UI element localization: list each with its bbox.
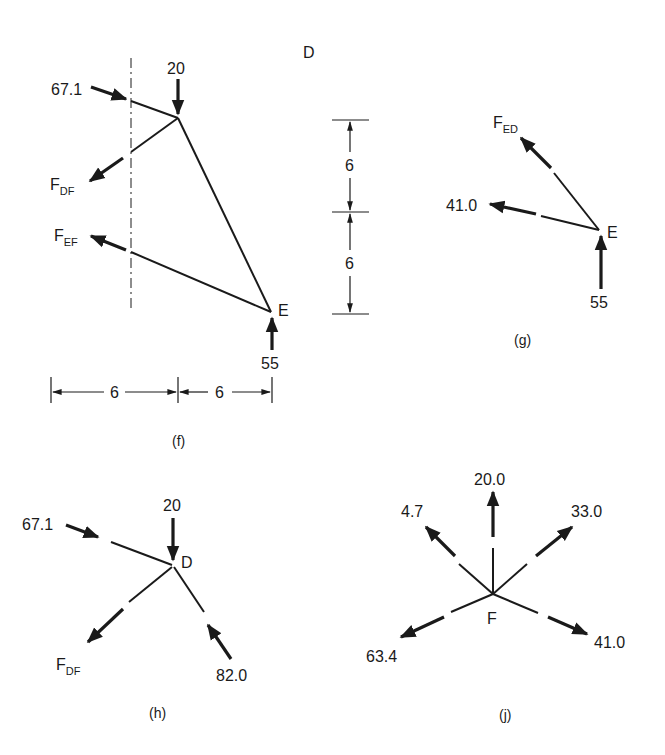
force-arrow-41-0 [490, 204, 536, 214]
label-node-D-top: D [303, 44, 315, 61]
force-arrow-F-EF [91, 236, 126, 250]
label-force-67-1-h: 67.1 [22, 516, 53, 533]
label-force-20-0: 20.0 [474, 471, 505, 488]
label-F-EF: FEF [54, 227, 78, 248]
label-node-D-h: D [181, 554, 193, 571]
label-force-41-0-j: 41.0 [594, 634, 625, 651]
label-force-63-4: 63.4 [366, 648, 397, 665]
member-h-F-DF [129, 567, 172, 602]
member-h-67-1 [111, 542, 172, 565]
label-force-67-1: 67.1 [51, 81, 82, 98]
force-arrow-33-0 [536, 527, 572, 556]
force-arrow-67-1 [91, 87, 126, 99]
force-arrow-63-4 [401, 617, 444, 637]
member-j-down-right [493, 594, 538, 613]
force-arrow-F-DF-h [88, 609, 123, 642]
label-force-20-h: 20 [163, 497, 181, 514]
force-arrow-41-0-j [548, 617, 587, 634]
member-cut-to-D-upper [131, 101, 178, 118]
label-force-82-0: 82.0 [216, 667, 247, 684]
caption-g: (g) [514, 332, 531, 348]
label-F-DF-h: FDF [56, 656, 81, 677]
label-F-ED: FED [493, 114, 518, 135]
member-j-up-right [493, 564, 527, 594]
force-arrow-F-DF [90, 158, 123, 181]
force-arrow-F-ED [521, 138, 551, 168]
member-D-to-E [178, 118, 271, 312]
label-force-55: 55 [261, 355, 279, 372]
label-force-20: 20 [167, 60, 185, 77]
member-h-82-0 [174, 567, 204, 612]
label-force-4-7: 4.7 [401, 503, 423, 520]
force-arrow-82-0 [208, 625, 231, 659]
caption-j: (j) [499, 707, 511, 723]
label-node-F-j: F [487, 610, 497, 627]
label-node-E: E [278, 302, 289, 319]
label-dim-h2: 6 [215, 384, 224, 401]
member-j-up-left [459, 564, 493, 594]
caption-h: (h) [149, 705, 166, 721]
label-node-E-g: E [607, 224, 618, 241]
label-dim-v1: 6 [345, 157, 354, 174]
truss-free-body-diagrams: 67.1 20 D E 55 FDF FEF 6 6 6 6 (f) [0, 0, 665, 755]
panel-j: 20.0 4.7 33.0 F 63.4 41.0 (j) [366, 471, 625, 723]
force-arrow-4-7 [426, 527, 455, 556]
label-force-33-0: 33.0 [571, 503, 602, 520]
label-dim-v2: 6 [345, 255, 354, 272]
member-E-to-cut [131, 252, 271, 312]
label-force-41-0-g: 41.0 [446, 197, 477, 214]
label-F-DF: FDF [50, 176, 75, 197]
panel-h: 67.1 20 D 82.0 FDF (h) [22, 497, 247, 721]
force-arrow-67-1-h [66, 525, 98, 537]
panel-g: FED 41.0 E 55 (g) [446, 114, 618, 348]
panel-f: 67.1 20 D E 55 FDF FEF 6 6 6 6 (f) [50, 44, 369, 449]
label-force-55-g: 55 [590, 294, 608, 311]
label-dim-h1: 6 [110, 384, 119, 401]
caption-f: (f) [172, 433, 185, 449]
member-D-to-cut-lower [131, 118, 178, 152]
